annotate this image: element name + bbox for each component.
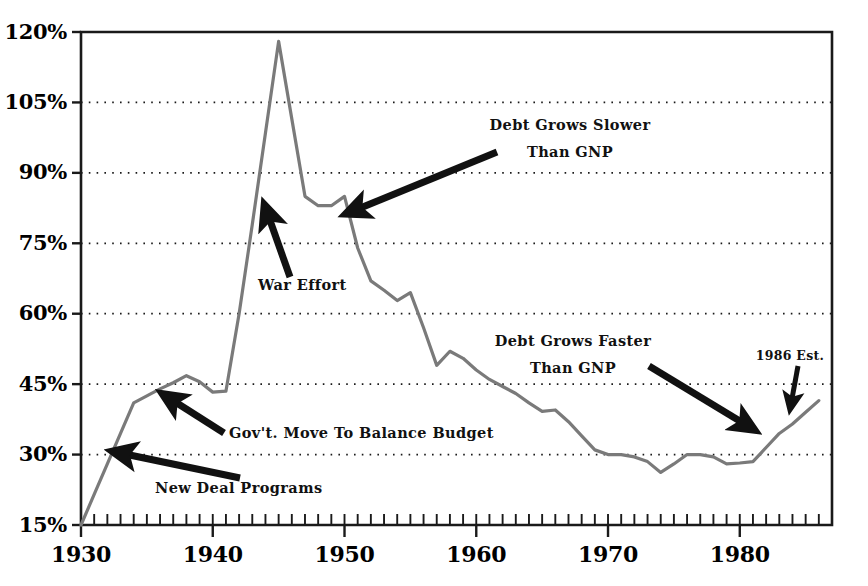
annotation-debt-grows-slower-than-gnp: Debt Grows SlowerThan GNP bbox=[353, 116, 650, 211]
y-axis-tick-label: 90% bbox=[19, 159, 68, 184]
x-axis-labels: 193019401950196019701980 bbox=[51, 541, 770, 567]
annotation-arrow bbox=[267, 212, 290, 277]
x-axis-tick-label: 1940 bbox=[183, 541, 243, 567]
annotation-1986-estimate: 1986 Est. bbox=[756, 348, 825, 404]
x-axis-tick-label: 1970 bbox=[578, 541, 638, 567]
x-axis-minor-ticks bbox=[81, 514, 832, 525]
annotation-arrow bbox=[120, 453, 240, 478]
annotation-arrow bbox=[169, 398, 224, 433]
annotation-label: War Effort bbox=[257, 276, 347, 293]
y-axis-tick-marks bbox=[72, 32, 81, 525]
plot-frame bbox=[81, 32, 832, 525]
annotation-label-line2: Than GNP bbox=[527, 143, 613, 160]
chart-figure: 15%30%45%60%75%90%105%120% 1930194019501… bbox=[0, 0, 868, 586]
data-line-debt-percent-gnp bbox=[81, 41, 819, 525]
y-axis-tick-label: 75% bbox=[19, 230, 68, 255]
x-axis-tick-label: 1980 bbox=[710, 541, 770, 567]
annotation-label-line1: Debt Grows Faster bbox=[495, 332, 652, 349]
y-axis-labels: 15%30%45%60%75%90%105%120% bbox=[4, 19, 67, 537]
x-axis-tick-label: 1930 bbox=[51, 541, 111, 567]
annotation-arrow bbox=[649, 366, 748, 426]
annotation-arrow bbox=[353, 152, 497, 211]
x-axis-tick-label: 1950 bbox=[314, 541, 374, 567]
x-axis-major-ticks bbox=[81, 525, 740, 537]
annotation-label: New Deal Programs bbox=[155, 479, 322, 496]
y-axis-tick-label: 30% bbox=[19, 441, 68, 466]
annotation-label: 1986 Est. bbox=[756, 348, 825, 363]
y-axis-tick-label: 60% bbox=[19, 300, 68, 325]
annotation-label-line2: Than GNP bbox=[530, 359, 616, 376]
y-axis-tick-label: 45% bbox=[19, 371, 68, 396]
annotation-arrow bbox=[791, 366, 798, 404]
annotation-label-line1: Debt Grows Slower bbox=[490, 116, 651, 133]
annotation-debt-grows-faster-than-gnp: Debt Grows FasterThan GNP bbox=[495, 332, 748, 426]
annotation-govt-move-to-balance-budget: Gov't. Move To Balance Budget bbox=[169, 398, 494, 441]
debt-to-gnp-line-chart: 15%30%45%60%75%90%105%120% 1930194019501… bbox=[0, 0, 868, 586]
y-axis-tick-label: 15% bbox=[19, 512, 68, 537]
x-axis-tick-label: 1960 bbox=[446, 541, 506, 567]
annotation-label: Gov't. Move To Balance Budget bbox=[229, 424, 494, 441]
y-axis-tick-label: 120% bbox=[4, 19, 67, 44]
annotation-new-deal-programs: New Deal Programs bbox=[120, 453, 322, 496]
annotation-war-effort: War Effort bbox=[257, 212, 347, 293]
gridlines bbox=[81, 102, 832, 454]
y-axis-tick-label: 105% bbox=[4, 89, 67, 114]
